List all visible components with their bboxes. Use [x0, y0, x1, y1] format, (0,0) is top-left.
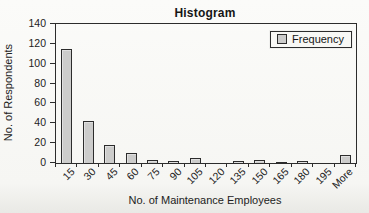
x-tick — [334, 163, 335, 167]
bar-135 — [233, 161, 244, 163]
x-tick — [162, 163, 163, 167]
x-tick — [98, 163, 99, 167]
bar-30 — [83, 121, 94, 163]
x-tick — [226, 163, 227, 167]
x-tick — [312, 163, 313, 167]
x-tick — [119, 163, 120, 167]
plot-area: Frequency — [55, 23, 357, 164]
bar-150 — [254, 160, 265, 163]
x-tick — [55, 163, 56, 167]
x-tick — [355, 163, 356, 167]
y-axis-title: No. of Respondents — [2, 28, 15, 158]
y-tick-label: 0 — [14, 157, 46, 168]
y-tick-label: 60 — [14, 97, 46, 108]
x-tick — [184, 163, 185, 167]
legend-label: Frequency — [292, 34, 344, 45]
y-tick-label: 140 — [14, 18, 46, 29]
bar-More — [340, 155, 351, 163]
y-tick-label: 40 — [14, 117, 46, 128]
x-tick — [248, 163, 249, 167]
bar-105 — [190, 158, 201, 163]
y-tick-label: 120 — [14, 38, 46, 49]
bar-165 — [276, 162, 287, 164]
bar-75 — [147, 160, 158, 163]
histogram-chart: Histogram No. of Respondents 02040608010… — [0, 0, 369, 213]
chart-title: Histogram — [55, 6, 355, 20]
x-tick — [76, 163, 77, 167]
bar-90 — [168, 161, 179, 163]
bar-180 — [297, 161, 308, 163]
legend: Frequency — [270, 31, 352, 48]
x-tick — [205, 163, 206, 167]
y-tick-label: 100 — [14, 58, 46, 69]
x-tick — [269, 163, 270, 167]
x-tick — [291, 163, 292, 167]
bar-15 — [61, 49, 72, 163]
bar-60 — [126, 153, 137, 163]
legend-swatch-icon — [277, 34, 287, 44]
x-tick — [141, 163, 142, 167]
y-tick-label: 20 — [14, 137, 46, 148]
x-axis-title: No. of Maintenance Employees — [55, 194, 355, 206]
y-tick-label: 80 — [14, 78, 46, 89]
bar-45 — [104, 145, 115, 163]
